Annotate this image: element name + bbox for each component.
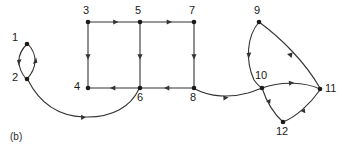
vertex-9[interactable]: [257, 20, 262, 25]
figure-caption: (b): [10, 131, 22, 142]
arrowhead-3-to-4: [85, 54, 90, 59]
edge-2-to-1: [27, 44, 35, 79]
vertex-4[interactable]: [86, 86, 91, 91]
edge-2-to-6: [28, 80, 139, 117]
node-label-2: 2: [12, 72, 18, 83]
arrowhead-9-to-11: [287, 53, 293, 58]
arrowhead-7-to-8: [191, 54, 196, 59]
graph-figure: 1 2 3 4 5 6 7 8 9 10 11 12 (b): [0, 0, 342, 151]
edge-12-to-11: [283, 90, 320, 122]
vertex-10[interactable]: [260, 86, 265, 91]
arrowhead-5-to-6: [137, 54, 142, 59]
node-label-3: 3: [83, 5, 89, 16]
vertex-6[interactable]: [138, 86, 143, 91]
vertex-7[interactable]: [192, 20, 197, 25]
vertex-5[interactable]: [138, 20, 143, 25]
arrowhead-5-to-7: [167, 19, 172, 24]
node-label-10: 10: [255, 70, 267, 81]
vertex-3[interactable]: [86, 20, 91, 25]
edge-8-to-10: [195, 88, 262, 96]
node-label-4: 4: [74, 81, 80, 92]
vertex-2[interactable]: [25, 77, 30, 82]
arrowhead-9-to-10: [247, 53, 252, 59]
arrowhead-6-to-4: [110, 85, 115, 90]
node-label-9: 9: [254, 5, 260, 16]
vertex-1[interactable]: [25, 42, 30, 47]
vertex-11[interactable]: [318, 87, 323, 92]
node-label-5: 5: [135, 5, 141, 16]
node-label-12: 12: [276, 126, 288, 137]
graph-canvas: [0, 0, 342, 151]
node-label-11: 11: [325, 83, 336, 94]
arrowhead-8-to-6: [164, 85, 169, 90]
edge-10-to-12: [262, 88, 283, 122]
node-label-1: 1: [12, 32, 18, 43]
node-label-6: 6: [137, 92, 143, 103]
node-label-8: 8: [190, 92, 196, 103]
arrowhead-3-to-5: [113, 19, 118, 24]
vertex-8[interactable]: [192, 86, 197, 91]
node-label-7: 7: [189, 5, 195, 16]
vertex-12[interactable]: [281, 120, 286, 125]
arrowhead-2-to-6: [81, 115, 86, 120]
